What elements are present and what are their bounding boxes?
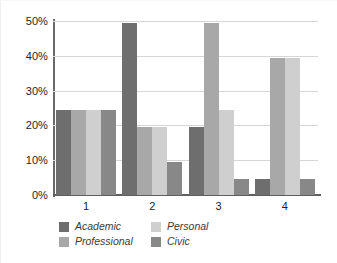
bar bbox=[300, 179, 315, 195]
bar bbox=[219, 110, 234, 195]
legend-label: Professional bbox=[75, 236, 133, 247]
legend-label: Personal bbox=[167, 221, 208, 232]
bar bbox=[86, 110, 101, 195]
bar-group bbox=[53, 21, 119, 195]
x-axis-tick-label: 2 bbox=[122, 200, 182, 212]
bar bbox=[56, 110, 71, 195]
bar bbox=[234, 179, 249, 195]
legend-swatch-icon bbox=[59, 222, 69, 232]
bar-chart: 0%10%20%30%40%50% 1234 AcademicPersonalP… bbox=[0, 0, 337, 263]
bar bbox=[122, 23, 137, 195]
x-axis-tick-label: 4 bbox=[255, 200, 315, 212]
legend-item[interactable]: Academic bbox=[59, 221, 151, 232]
legend-label: Civic bbox=[167, 236, 190, 247]
chart-legend: AcademicPersonalProfessionalCivic bbox=[59, 219, 274, 249]
bar bbox=[285, 58, 300, 195]
y-axis-tick-label: 0% bbox=[4, 190, 48, 201]
bar bbox=[189, 127, 204, 195]
legend-swatch-icon bbox=[151, 237, 161, 247]
y-axis-tick-label: 20% bbox=[4, 120, 48, 131]
y-axis-tick-label: 50% bbox=[4, 16, 48, 27]
bar bbox=[204, 23, 219, 195]
legend-swatch-icon bbox=[151, 222, 161, 232]
y-axis-tick-label: 10% bbox=[4, 155, 48, 166]
bar bbox=[167, 162, 182, 195]
x-axis-tick-label: 3 bbox=[189, 200, 249, 212]
bar-group bbox=[186, 21, 252, 195]
bar bbox=[71, 110, 86, 195]
bar-group bbox=[119, 21, 185, 195]
bar bbox=[270, 58, 285, 195]
bar bbox=[101, 110, 116, 195]
bar-group bbox=[252, 21, 318, 195]
bar bbox=[255, 179, 270, 195]
legend-item[interactable]: Professional bbox=[59, 236, 151, 247]
legend-item[interactable]: Civic bbox=[151, 236, 274, 247]
legend-item[interactable]: Personal bbox=[151, 221, 274, 232]
x-axis-tick-label: 1 bbox=[56, 200, 116, 212]
legend-swatch-icon bbox=[59, 237, 69, 247]
y-axis-tick-label: 30% bbox=[4, 86, 48, 97]
legend-label: Academic bbox=[75, 221, 121, 232]
gridline bbox=[53, 195, 318, 196]
bar bbox=[152, 127, 167, 195]
plot-area bbox=[53, 21, 318, 195]
y-axis-tick-label: 40% bbox=[4, 51, 48, 62]
bar bbox=[137, 127, 152, 195]
